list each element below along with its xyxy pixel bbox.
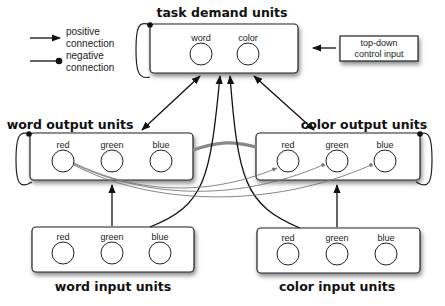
- word-input-title: word input units: [55, 279, 171, 294]
- unit-task-color: [237, 43, 259, 65]
- legend-positive-label-1: positive: [66, 26, 100, 37]
- unit-label-blue: blue: [152, 140, 169, 150]
- unit-color-input-blue: [375, 243, 397, 265]
- unit-word-output-blue: [150, 150, 172, 172]
- unit-label-blue: blue: [151, 232, 168, 242]
- unit-label-red: red: [56, 140, 69, 150]
- unit-label-word: word: [190, 33, 211, 43]
- legend-negative-label-2: connection: [66, 62, 114, 73]
- legend-negative-label-1: negative: [66, 50, 104, 61]
- word-output-title: word output units: [7, 117, 134, 132]
- unit-label-blue: blue: [377, 233, 394, 243]
- output-mutual-inhibition-link: [193, 143, 256, 150]
- control-input: top-down control input: [313, 36, 418, 61]
- negative-dot-icon: [147, 22, 153, 28]
- task-word-output-link: [142, 76, 200, 130]
- color-output-title: color output units: [301, 117, 428, 132]
- unit-label-green: green: [100, 232, 123, 242]
- word-input-layer: red green blue word input units: [32, 227, 194, 294]
- unit-label-color: color: [238, 33, 258, 43]
- unit-color-input-green: [326, 243, 348, 265]
- task-demand-self-inhibition-loop: [136, 24, 150, 78]
- task-demand-box: [150, 24, 298, 73]
- task-color-output-link: [254, 76, 314, 130]
- unit-label-green: green: [325, 140, 348, 150]
- unit-color-input-red: [277, 243, 299, 265]
- stroop-model-diagram: positive connection negative connection …: [0, 0, 445, 306]
- unit-task-word: [190, 43, 212, 65]
- unit-label-red: red: [281, 233, 294, 243]
- unit-word-input-green: [101, 242, 123, 264]
- negative-dot-icon: [56, 58, 63, 65]
- color-input-title: color input units: [279, 279, 395, 294]
- unit-word-output-red: [52, 150, 74, 172]
- task-demand-title: task demand units: [156, 5, 287, 20]
- color-output-layer: color output units red green blue: [256, 117, 432, 185]
- unit-word-input-blue: [149, 242, 171, 264]
- unit-label-red: red: [281, 140, 294, 150]
- legend-positive-label-2: connection: [66, 38, 114, 49]
- negative-dot-icon: [26, 131, 32, 137]
- unit-word-output-green: [101, 150, 123, 172]
- unit-label-green: green: [325, 233, 348, 243]
- unit-color-output-blue: [374, 150, 396, 172]
- legend: positive connection negative connection: [30, 26, 114, 73]
- unit-color-output-green: [326, 150, 348, 172]
- control-input-label-2: control input: [354, 49, 404, 59]
- unit-label-red: red: [56, 232, 69, 242]
- unit-label-blue: blue: [376, 140, 393, 150]
- unit-word-input-red: [52, 242, 74, 264]
- negative-dot-icon: [417, 131, 423, 137]
- unit-label-green: green: [100, 140, 123, 150]
- unit-color-output-red: [277, 150, 299, 172]
- color-input-layer: red green blue color input units: [257, 228, 420, 294]
- task-demand-layer: task demand units word color: [136, 5, 298, 78]
- control-input-label-1: top-down: [360, 38, 397, 48]
